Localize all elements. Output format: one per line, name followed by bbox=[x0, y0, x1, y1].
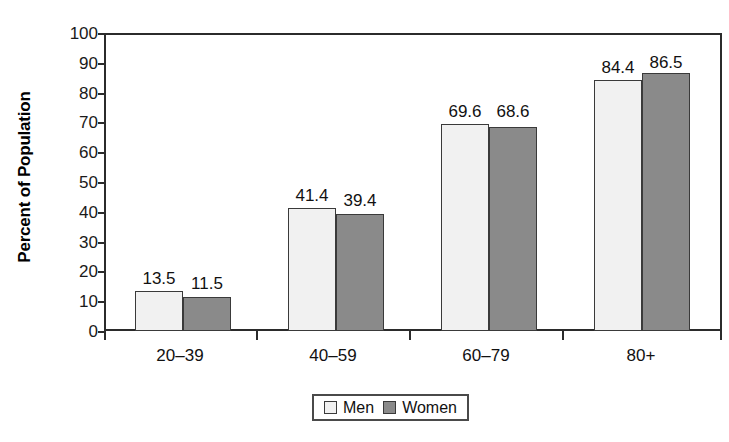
value-label-women-0: 11.5 bbox=[175, 275, 239, 292]
bar-chart: Percent of Population 100 90 80 70 60 50… bbox=[0, 0, 729, 442]
legend-entry-men: Men bbox=[324, 400, 374, 416]
x-category-label-0: 20–39 bbox=[124, 346, 236, 365]
bar-women-1 bbox=[336, 214, 384, 331]
legend-entry-women: Women bbox=[383, 400, 457, 416]
x-tick-mark bbox=[104, 331, 106, 340]
y-tick-label: 0 bbox=[52, 323, 98, 340]
y-tick-label: 60 bbox=[52, 144, 98, 161]
y-tick-label: 40 bbox=[52, 204, 98, 221]
legend: Men Women bbox=[312, 394, 469, 421]
y-axis-ticks: 100 90 80 70 60 50 40 30 20 10 0 bbox=[46, 33, 98, 331]
value-label-women-3: 86.5 bbox=[634, 54, 698, 71]
x-category-label-3: 80+ bbox=[585, 346, 697, 365]
bar-men-3 bbox=[594, 80, 642, 332]
x-tick-mark bbox=[409, 331, 411, 340]
y-tick-label: 50 bbox=[52, 174, 98, 191]
x-category-label-1: 40–59 bbox=[277, 346, 389, 365]
bar-men-1 bbox=[288, 208, 336, 331]
x-tick-mark bbox=[562, 331, 564, 340]
legend-label-men: Men bbox=[343, 400, 374, 416]
value-label-women-2: 68.6 bbox=[481, 103, 545, 120]
legend-label-women: Women bbox=[402, 400, 457, 416]
y-tick-label: 80 bbox=[52, 85, 98, 102]
y-tick-label: 90 bbox=[52, 55, 98, 72]
bar-women-2 bbox=[489, 127, 537, 331]
x-tick-mark bbox=[720, 331, 722, 340]
x-tick-mark bbox=[256, 331, 258, 340]
y-tick-label: 100 bbox=[52, 25, 98, 42]
bar-women-3 bbox=[642, 73, 690, 331]
legend-swatch-women-icon bbox=[383, 401, 396, 414]
y-axis-title: Percent of Population bbox=[15, 42, 35, 312]
legend-swatch-men-icon bbox=[324, 401, 337, 414]
x-category-label-2: 60–79 bbox=[430, 346, 542, 365]
y-tick-label: 20 bbox=[52, 263, 98, 280]
y-tick-label: 30 bbox=[52, 234, 98, 251]
bar-men-2 bbox=[441, 124, 489, 331]
bar-women-0 bbox=[183, 297, 231, 331]
y-tick-label: 70 bbox=[52, 114, 98, 131]
value-label-women-1: 39.4 bbox=[328, 192, 392, 209]
y-tick-label: 10 bbox=[52, 293, 98, 310]
bar-men-0 bbox=[135, 291, 183, 331]
